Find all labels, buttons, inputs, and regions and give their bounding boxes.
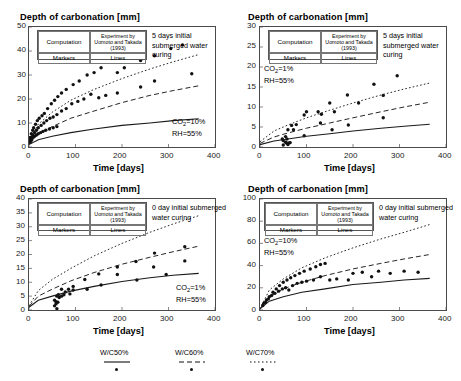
co2-label: CO2=1%: [176, 283, 205, 292]
footer-legend-line-solid: [104, 360, 130, 364]
page-title: Depth of carbonation [mm]: [248, 184, 368, 194]
page-title: Depth of carbonation [mm]: [20, 184, 140, 194]
legend-markers: Markers: [269, 53, 321, 64]
y-tick: 0: [238, 142, 256, 151]
x-tick: 400: [207, 314, 220, 323]
y-tick: 35: [7, 207, 25, 216]
y-tick: 15: [7, 263, 25, 272]
condition-note: CO2=10%RH=55%: [264, 236, 297, 258]
x-tick: 100: [66, 151, 79, 160]
curing-note: 0 day initial submerged water curing: [152, 203, 228, 222]
footer-legend-line-dashed: [179, 360, 205, 364]
y-tick: 20: [235, 282, 256, 291]
page-title: Depth of carbonation [mm]: [248, 12, 368, 22]
condition-note: CO2=1%RH=55%: [264, 64, 294, 86]
y-tick: 60: [235, 237, 256, 246]
x-tick: 0: [26, 314, 30, 323]
y-tick: 20: [7, 249, 25, 258]
condition-note: CO2=10%RH=55%: [172, 117, 205, 139]
footer-legend-marker-1: [190, 368, 193, 371]
x-axis-label: Time [days]: [324, 163, 375, 173]
x-tick: 200: [344, 151, 357, 160]
y-tick: 10: [7, 277, 25, 286]
co2-label: CO2=10%: [172, 117, 205, 126]
curing-note: 0 day initial submerged water curing: [379, 203, 457, 222]
legend-computation: Computation: [38, 203, 90, 225]
page-title: Depth of carbonation [mm]: [20, 12, 140, 22]
legend-table: Computation Experiment by Uomoto and Tak…: [264, 202, 374, 231]
x-tick: 400: [207, 151, 220, 160]
y-tick: 25: [238, 41, 256, 50]
x-tick: 0: [26, 151, 30, 160]
legend-experiment: Experiment by Uomoto and Takada (1993): [90, 31, 146, 53]
y-tick: 15: [238, 82, 256, 91]
y-tick: 0: [235, 305, 256, 314]
chart-panel-bottom-right: Depth of carbonation [mm] 100 80 60 40 2…: [231, 183, 461, 343]
y-tick: 30: [238, 21, 256, 30]
chart-panel-top-left: Depth of carbonation [mm] 50 40 30 20 10…: [0, 0, 231, 190]
footer-legend-marker-2: [261, 368, 264, 371]
y-tick: 50: [8, 21, 26, 30]
co2-label: CO2=1%: [264, 64, 293, 73]
rh-label: RH=55%: [176, 295, 206, 304]
footer-legend-marker-0: [115, 368, 118, 371]
chart-panel-bottom-left: Depth of carbonation [mm] 40 35 30 25 20…: [0, 183, 231, 343]
y-tick: 40: [8, 45, 26, 54]
legend-lines: Lines: [317, 225, 373, 236]
legend-table: Computation Experiment by Uomoto and Tak…: [37, 202, 147, 231]
chart-panel-top-right: Depth of carbonation [mm] 30 25 20 15 10…: [231, 0, 461, 190]
curing-note: 5 days initial submerged water curing: [152, 31, 227, 60]
x-tick: 400: [438, 314, 451, 323]
legend-computation: Computation: [269, 31, 321, 53]
x-tick: 100: [297, 151, 310, 160]
x-axis-label: Time [days]: [93, 326, 144, 336]
footer-legend-label-2: W/C70%: [246, 348, 274, 357]
x-tick: 200: [113, 151, 126, 160]
y-tick: 30: [7, 221, 25, 230]
condition-note: CO2=1%RH=55%: [176, 283, 206, 305]
y-tick: 0: [8, 142, 26, 151]
footer-legend-label-1: W/C60%: [175, 348, 203, 357]
x-tick: 100: [66, 314, 79, 323]
legend-table: Computation Experiment by Uomoto and Tak…: [268, 30, 378, 60]
x-tick: 300: [391, 151, 404, 160]
co2-label: CO2=10%: [264, 236, 297, 245]
footer-legend-line-dotted: [250, 360, 276, 364]
legend-experiment: Experiment by Uomoto and Takada (1993): [90, 203, 146, 225]
y-tick: 10: [238, 102, 256, 111]
legend-table: Computation Experiment by Uomoto and Tak…: [37, 30, 147, 60]
legend-markers: Markers: [265, 225, 317, 236]
y-tick: 80: [235, 215, 256, 224]
legend-experiment: Experiment by Uomoto and Takada (1993): [321, 31, 377, 53]
y-tick: 5: [7, 291, 25, 300]
rh-label: RH=55%: [264, 76, 294, 85]
legend-experiment: Experiment by Uomoto and Takada (1993): [317, 203, 373, 225]
legend-lines: Lines: [90, 225, 146, 236]
x-tick: 200: [113, 314, 126, 323]
curing-note: 5 days initial submerged water curing: [383, 31, 459, 60]
legend-lines: Lines: [321, 53, 377, 64]
legend-markers: Markers: [38, 53, 90, 64]
y-tick: 30: [8, 70, 26, 79]
y-tick: 0: [7, 305, 25, 314]
x-tick: 400: [438, 151, 451, 160]
x-axis-label: Time [days]: [93, 163, 144, 173]
x-tick: 0: [257, 314, 261, 323]
y-tick: 25: [7, 235, 25, 244]
y-tick: 40: [235, 260, 256, 269]
y-tick: 100: [235, 193, 256, 202]
legend-computation: Computation: [265, 203, 317, 225]
legend-computation: Computation: [38, 31, 90, 53]
y-tick: 10: [8, 118, 26, 127]
x-tick: 100: [297, 314, 310, 323]
x-tick: 300: [391, 314, 404, 323]
footer-legend-label-0: W/C50%: [100, 348, 128, 357]
y-tick: 40: [7, 193, 25, 202]
y-tick: 20: [8, 94, 26, 103]
y-tick: 20: [238, 61, 256, 70]
y-tick: 5: [238, 122, 256, 131]
legend-markers: Markers: [38, 225, 90, 236]
rh-label: RH=55%: [264, 248, 294, 257]
x-axis-label: Time [days]: [324, 326, 375, 336]
x-tick: 300: [160, 151, 173, 160]
